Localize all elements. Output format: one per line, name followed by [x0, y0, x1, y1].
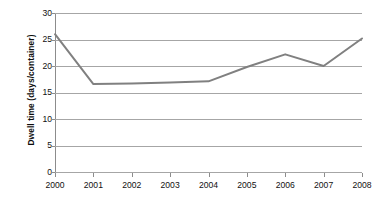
y-axis-tick-mark — [51, 66, 55, 67]
series-dwell-time — [55, 13, 362, 172]
x-axis-tick-mark — [247, 173, 248, 177]
x-axis-tick-label: 2002 — [112, 180, 152, 190]
x-axis-tick-mark — [209, 173, 210, 177]
x-axis-tick-label: 2001 — [73, 180, 113, 190]
y-axis-tick-mark — [51, 146, 55, 147]
plot-area — [55, 13, 362, 172]
y-axis-tick-mark — [51, 13, 55, 14]
x-axis-tick-label: 2008 — [342, 180, 374, 190]
x-axis-tick-label-group: 200020012002200320042005200620072008 — [55, 180, 362, 194]
y-axis-tick-label: 20 — [30, 62, 52, 71]
x-axis-tick-label: 2003 — [150, 180, 190, 190]
x-axis-tick-label: 2000 — [35, 180, 75, 190]
y-axis-tick-mark — [51, 40, 55, 41]
x-axis-tick-label: 2005 — [227, 180, 267, 190]
x-axis-tick-mark — [285, 173, 286, 177]
y-axis-tick-label: 30 — [30, 9, 52, 18]
x-axis-tick-mark — [55, 173, 56, 177]
series-line-dwell-time — [55, 34, 362, 84]
x-axis-tick-mark — [324, 173, 325, 177]
line-chart: Dwell time (days/container) 051015202530… — [0, 0, 374, 200]
y-axis-tick-label-group: 051015202530 — [30, 0, 52, 200]
x-axis-tick-label: 2007 — [304, 180, 344, 190]
x-axis-tick-label: 2006 — [265, 180, 305, 190]
x-axis-tick-mark — [170, 173, 171, 177]
x-axis-tick-mark — [362, 173, 363, 177]
y-axis-tick-mark — [51, 119, 55, 120]
y-axis-tick-label: 5 — [30, 141, 52, 150]
y-axis-tick-mark — [51, 93, 55, 94]
y-axis-tick-label: 0 — [30, 168, 52, 177]
y-axis-tick-label: 25 — [30, 35, 52, 44]
x-axis-tick-mark — [132, 173, 133, 177]
x-axis-tick-mark — [93, 173, 94, 177]
x-axis-tick-label: 2004 — [189, 180, 229, 190]
y-axis-tick-label: 10 — [30, 115, 52, 124]
y-axis-tick-label: 15 — [30, 88, 52, 97]
